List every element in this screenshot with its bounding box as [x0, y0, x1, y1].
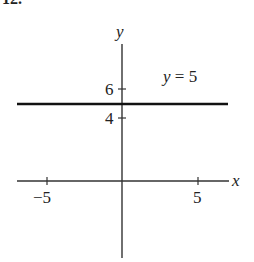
x-tick-label-neg5: −5 — [33, 188, 51, 207]
graph-figure: 12. y x −5 5 6 4 y = 5 — [0, 0, 254, 262]
y-axis-label: y — [114, 22, 124, 41]
x-tick-label-5: 5 — [193, 188, 202, 207]
line-equation-var: y — [161, 67, 171, 86]
y-tick-label-4: 4 — [105, 109, 114, 128]
problem-number: 12. — [2, 0, 22, 7]
x-axis-label: x — [231, 171, 240, 190]
line-equation-label: y = 5 — [161, 67, 197, 86]
coordinate-plane: 12. y x −5 5 6 4 y = 5 — [0, 0, 254, 262]
y-tick-label-6: 6 — [105, 80, 114, 99]
line-equation-rest: = 5 — [171, 67, 198, 86]
